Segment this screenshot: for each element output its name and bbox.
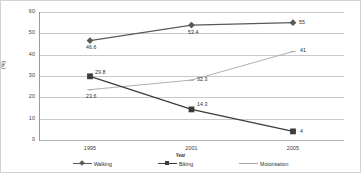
data-label-motorisation-2005: 41 — [300, 48, 306, 53]
data-label-motorisation-2001: 32.3 — [197, 77, 208, 82]
marker-motorisation-2005 — [291, 51, 296, 52]
legend-label-walking: Walking — [94, 161, 112, 167]
data-label-walking-1995: 46.6 — [86, 45, 97, 50]
legend-label-biking: Biking — [179, 161, 193, 167]
marker-walking-2001 — [188, 22, 195, 29]
legend-marker-biking-icon — [158, 160, 177, 167]
legend-marker-walking-icon — [73, 160, 92, 167]
line-chart: 60 50 40 30 20 10 0 (%) 1995 2001 2005 Y… — [0, 0, 361, 173]
chart-legend: Walking Biking Motorisation — [1, 160, 360, 167]
marker-walking-1995 — [87, 37, 94, 44]
data-label-walking-2005: 55 — [299, 20, 305, 25]
marker-biking-2005 — [290, 129, 296, 135]
legend-item-motorisation[interactable]: Motorisation — [239, 160, 288, 167]
legend-item-biking[interactable]: Biking — [158, 160, 193, 167]
legend-label-motorisation: Motorisation — [260, 161, 288, 167]
marker-biking-1995 — [87, 73, 93, 79]
legend-marker-motorisation-icon — [239, 160, 258, 167]
marker-biking-2001 — [189, 107, 195, 113]
legend-item-walking[interactable]: Walking — [73, 160, 112, 167]
data-label-motorisation-1995: 23.6 — [86, 94, 97, 99]
series-line-motorisation — [90, 52, 293, 90]
marker-motorisation-1995 — [88, 89, 93, 90]
marker-walking-2005 — [290, 19, 297, 26]
series-layer — [1, 1, 362, 174]
series-line-biking — [90, 76, 293, 131]
data-label-walking-2001: 53.4 — [188, 30, 199, 35]
marker-motorisation-2001 — [189, 80, 194, 81]
data-label-biking-1995: 29.8 — [95, 70, 106, 75]
data-label-biking-2001: 14.3 — [197, 102, 208, 107]
data-label-biking-2005: 4 — [300, 129, 303, 134]
